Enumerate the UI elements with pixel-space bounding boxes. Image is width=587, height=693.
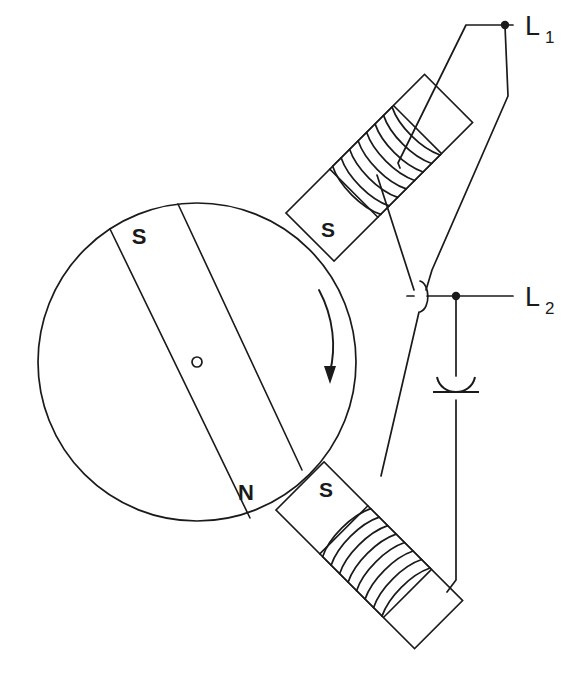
terminal-l1: L 1	[525, 11, 554, 47]
rotor-group: S N	[38, 203, 356, 521]
terminal-l2-label: L	[525, 282, 540, 312]
wire-l1-down-right	[426, 26, 508, 290]
upper-stator-pole-group: S	[286, 74, 473, 261]
terminal-l1-label: L	[525, 11, 540, 41]
terminal-l1-subscript: 1	[545, 28, 554, 47]
junction-dot-l1	[501, 21, 509, 29]
rotor-shaft-center	[192, 357, 202, 367]
junction-dot-l2	[452, 292, 460, 300]
terminal-l2: L 2	[525, 282, 554, 318]
lower-pole-body	[276, 462, 463, 649]
terminal-l2-subscript: 2	[545, 299, 554, 318]
rotor-pole-label-s: S	[132, 224, 147, 249]
wire-capacitor-to-lower-coil	[447, 400, 456, 592]
run-capacitor	[433, 377, 479, 392]
rotor-pole-label-n: N	[238, 480, 254, 505]
schematic-diagram: S N	[0, 0, 587, 693]
wire-junction-to-lower-pole	[381, 312, 419, 476]
upper-pole-body	[286, 74, 473, 261]
upper-pole-label: S	[321, 218, 335, 241]
capacitor-curved-plate	[437, 377, 475, 392]
lower-stator-pole-group: S	[276, 462, 463, 649]
lower-pole-label: S	[319, 478, 333, 501]
schematic-canvas: S N	[0, 0, 587, 693]
